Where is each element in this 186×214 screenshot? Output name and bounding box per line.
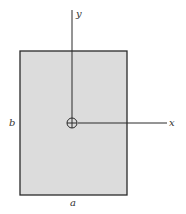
x-axis-label: x bbox=[169, 117, 175, 128]
height-label: b bbox=[9, 117, 15, 128]
centroid-icon bbox=[67, 118, 77, 128]
cross-section-diagram: y x b a bbox=[0, 0, 186, 214]
y-axis-label: y bbox=[75, 8, 82, 19]
width-label: a bbox=[70, 197, 76, 208]
diagram-canvas: y x b a bbox=[0, 0, 186, 214]
